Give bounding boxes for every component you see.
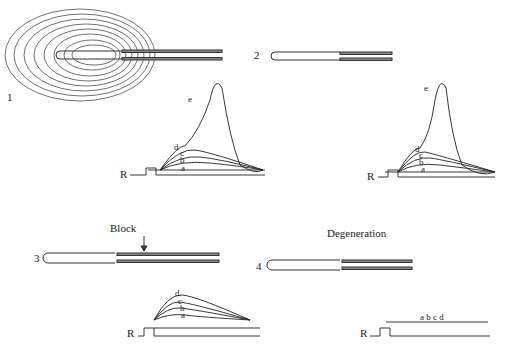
curve-labels-4: a b c d <box>420 313 444 322</box>
panel-3-number: 3 <box>34 253 40 264</box>
potentials-3 <box>138 295 260 336</box>
panel-1-number: 1 <box>7 92 13 103</box>
potentials-4 <box>370 322 490 336</box>
block-label: Block <box>110 223 136 234</box>
nerve-fiber-3 <box>43 236 219 263</box>
curve-label-2a: a <box>421 165 425 174</box>
diagram-canvas <box>0 0 505 347</box>
curve-label-1a: a <box>181 164 185 173</box>
panel-2-number: 2 <box>254 50 260 61</box>
stimulus-label-2: R <box>367 171 374 182</box>
stimulus-label-4: R <box>360 328 367 339</box>
curve-label-1e: e <box>188 95 192 104</box>
potentials-2 <box>378 84 495 177</box>
stimulus-label-1: R <box>120 169 127 180</box>
nerve-fiber-2 <box>271 52 392 61</box>
curve-label-2e: e <box>424 84 428 93</box>
corpuscle-lamellae <box>5 9 155 101</box>
curve-label-3a: a <box>181 311 185 320</box>
curve-label-1d: d <box>174 143 179 152</box>
nerve-fiber-4 <box>267 260 412 270</box>
stimulus-label-3: R <box>127 328 134 339</box>
nerve-fiber-1 <box>56 50 222 60</box>
panel-4-number: 4 <box>256 261 262 272</box>
degeneration-label: Degeneration <box>327 228 386 239</box>
potentials-1 <box>130 84 265 175</box>
